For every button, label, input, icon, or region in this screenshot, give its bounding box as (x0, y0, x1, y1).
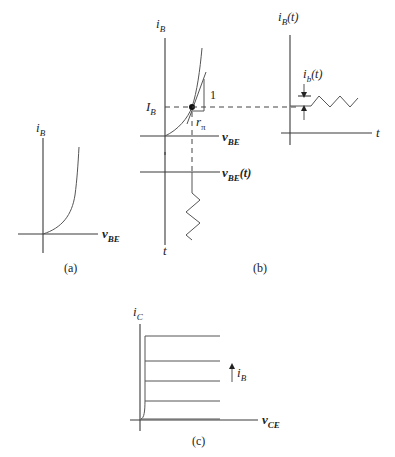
panel-b: iB IB 1 rπ vBE vBE(t) t iB(t) ib(t) t (b… (140, 9, 380, 275)
b-ibt-time-label: t (376, 125, 380, 140)
b-slope-rise-label: 1 (210, 88, 216, 102)
b-vbe-waveform (186, 172, 200, 240)
panel-c: iB iC vCE (c) (130, 304, 280, 448)
b-x-label: vBE (222, 129, 240, 147)
b-ib-label: IB (145, 99, 156, 117)
c-x-label: vCE (262, 412, 280, 430)
b-ib-signal-label: ib(t) (303, 66, 322, 84)
a-exponential-curve (43, 147, 79, 234)
bjt-characteristics-figure: iB vBE (a) iB IB 1 rπ vBE vBE(t) t iB(t)… (0, 0, 395, 457)
c-curve-4 (141, 336, 220, 419)
c-y-label: iC (133, 304, 144, 322)
b-time-label: t (163, 243, 167, 258)
a-caption: (a) (64, 261, 77, 275)
b-ibt-y-label: iB(t) (278, 9, 298, 27)
b-ib-waveform (290, 96, 358, 107)
b-rpi-label: rπ (196, 114, 206, 132)
panel-a: iB vBE (a) (18, 120, 120, 275)
b-y-label: iB (156, 16, 166, 34)
c-arrow-label: iB (237, 365, 247, 383)
b-caption: (b) (253, 261, 267, 275)
b-vbe-t-label: vBE(t) (222, 165, 251, 183)
a-y-label: iB (36, 120, 46, 138)
a-x-label: vBE (102, 226, 120, 244)
c-caption: (c) (192, 434, 205, 448)
